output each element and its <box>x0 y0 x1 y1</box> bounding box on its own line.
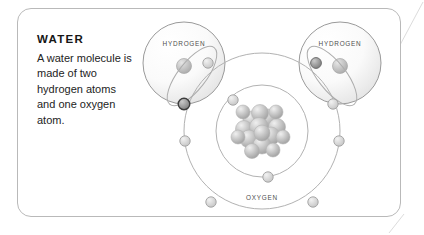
hydrogen-left-nucleus <box>177 59 192 74</box>
caption-block: WATER A water molecule is made of two hy… <box>37 33 133 128</box>
electron <box>334 136 344 146</box>
electron <box>328 99 338 109</box>
electron <box>206 197 216 207</box>
electron <box>228 95 238 105</box>
caption-body: A water molecule is made of two hydrogen… <box>37 51 133 128</box>
hydrogen-left-label: HYDROGEN <box>163 40 206 47</box>
hydrogen-right-label: HYDROGEN <box>319 40 362 47</box>
electron-shared <box>178 98 190 110</box>
electron <box>308 197 318 207</box>
electron <box>180 136 190 146</box>
electron <box>263 172 273 182</box>
oxygen-nucleus <box>231 105 290 159</box>
illustration-canvas: HYDROGEN HYDROGEN <box>0 0 424 235</box>
hydrogen-right-nucleus <box>333 59 348 74</box>
electron <box>203 58 213 68</box>
electron-shared <box>311 58 322 69</box>
oxygen-label: OXYGEN <box>246 194 278 201</box>
page-title: WATER <box>37 33 133 46</box>
